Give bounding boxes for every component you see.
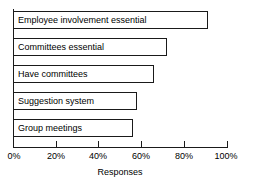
bar-label: Employee involvement essential bbox=[18, 15, 147, 25]
x-tick-label-100: 100% bbox=[206, 151, 246, 162]
x-tick-label-60: 60% bbox=[121, 151, 161, 162]
bar-label: Have committees bbox=[18, 69, 88, 79]
x-tick-20 bbox=[56, 141, 57, 148]
plot-area: Employee involvement essential Committee… bbox=[0, 0, 253, 148]
x-tick-80 bbox=[184, 141, 185, 148]
bar-label: Committees essential bbox=[18, 42, 104, 52]
value-axis-line bbox=[13, 147, 227, 148]
x-tick-label-0: 0% bbox=[0, 151, 34, 162]
bar-label: Suggestion system bbox=[18, 96, 94, 106]
bar-committees-essential: Committees essential bbox=[13, 38, 167, 56]
x-tick-40 bbox=[98, 141, 99, 148]
bar-label: Group meetings bbox=[18, 123, 82, 133]
bar-employee-involvement-essential: Employee involvement essential bbox=[13, 11, 208, 29]
x-tick-label-80: 80% bbox=[164, 151, 204, 162]
horizontal-bar-chart: Employee involvement essential Committee… bbox=[0, 0, 253, 190]
x-tick-60 bbox=[141, 141, 142, 148]
x-tick-0 bbox=[13, 141, 14, 148]
bar-group-meetings: Group meetings bbox=[13, 119, 133, 137]
x-tick-label-40: 40% bbox=[78, 151, 118, 162]
bar-have-committees: Have committees bbox=[13, 65, 154, 83]
x-tick-100 bbox=[227, 141, 228, 148]
bar-suggestion-system: Suggestion system bbox=[13, 92, 137, 110]
x-axis-title: Responses bbox=[0, 167, 240, 178]
x-tick-label-20: 20% bbox=[36, 151, 76, 162]
